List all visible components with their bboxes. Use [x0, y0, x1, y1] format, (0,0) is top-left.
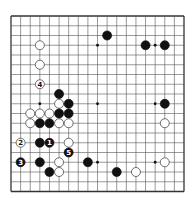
- stone-disc: [26, 119, 35, 128]
- star-point: [154, 102, 157, 105]
- stone-disc: [131, 168, 140, 177]
- black-stone: [35, 158, 44, 167]
- white-stone: [131, 168, 140, 177]
- stone-disc: [160, 41, 169, 50]
- stone-disc: [35, 138, 44, 147]
- black-stone: [141, 41, 150, 50]
- star-point: [154, 161, 157, 164]
- black-stone: [83, 158, 92, 167]
- stone-disc: [83, 158, 92, 167]
- move-number-label: 2: [18, 139, 23, 147]
- stone-disc: [64, 119, 73, 128]
- black-stone: [103, 31, 112, 40]
- black-stone: 5: [64, 148, 73, 157]
- go-board: 42153: [0, 0, 196, 200]
- white-stone: 2: [16, 138, 25, 147]
- black-stone: [45, 168, 54, 177]
- stone-disc: [103, 31, 112, 40]
- star-point: [154, 44, 157, 47]
- stone-disc: [55, 109, 64, 118]
- star-point: [96, 102, 99, 105]
- black-stone: [64, 99, 73, 108]
- black-stone: [35, 119, 44, 128]
- move-number-label: 4: [37, 81, 42, 89]
- white-stone: [64, 119, 73, 128]
- black-stone: [55, 109, 64, 118]
- white-stone: 4: [35, 80, 44, 89]
- white-stone: [160, 119, 169, 128]
- black-stone: [160, 99, 169, 108]
- stone-disc: [35, 158, 44, 167]
- stone-disc: [55, 168, 64, 177]
- star-point: [96, 44, 99, 47]
- stone-disc: [64, 109, 73, 118]
- stone-disc: [160, 99, 169, 108]
- move-number-label: 1: [47, 139, 52, 147]
- stone-disc: [55, 158, 64, 167]
- white-stone: [55, 158, 64, 167]
- white-stone: [26, 119, 35, 128]
- move-number-label: 3: [18, 159, 23, 167]
- white-stone: [55, 119, 64, 128]
- black-stone: [160, 41, 169, 50]
- stone-disc: [112, 168, 121, 177]
- black-stone: [45, 119, 54, 128]
- black-stone: 3: [16, 158, 25, 167]
- black-stone: [64, 109, 73, 118]
- white-stone: [160, 158, 169, 167]
- stone-disc: [45, 168, 54, 177]
- white-stone: [26, 109, 35, 118]
- white-stone: [55, 168, 64, 177]
- white-stone: [35, 109, 44, 118]
- stone-disc: [64, 138, 73, 147]
- black-stone: [112, 168, 121, 177]
- star-point: [38, 102, 41, 105]
- black-stone: [55, 90, 64, 99]
- white-stone: [35, 60, 44, 69]
- stone-disc: [26, 109, 35, 118]
- white-stone: [45, 109, 54, 118]
- stone-disc: [45, 109, 54, 118]
- stone-disc: [45, 119, 54, 128]
- white-stone: [35, 41, 44, 50]
- stone-disc: [64, 99, 73, 108]
- stone-disc: [160, 158, 169, 167]
- white-stone: [55, 99, 64, 108]
- stone-disc: [55, 99, 64, 108]
- stone-disc: [35, 119, 44, 128]
- stone-disc: [55, 90, 64, 99]
- white-stone: [64, 138, 73, 147]
- move-number-label: 5: [66, 149, 71, 157]
- stone-disc: [55, 119, 64, 128]
- stone-disc: [35, 41, 44, 50]
- stone-disc: [35, 109, 44, 118]
- black-stone: [35, 138, 44, 147]
- stone-disc: [141, 41, 150, 50]
- stone-disc: [160, 119, 169, 128]
- black-stone: 1: [45, 138, 54, 147]
- stone-disc: [35, 60, 44, 69]
- star-point: [96, 161, 99, 164]
